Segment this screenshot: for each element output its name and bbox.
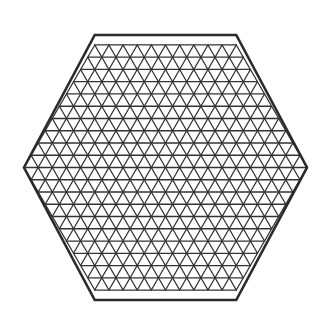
hexagon-grid-figure	[0, 0, 331, 333]
figure-canvas	[0, 0, 331, 333]
